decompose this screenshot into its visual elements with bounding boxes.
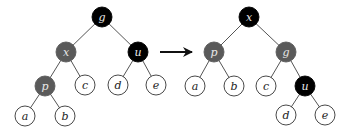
tree-node-x: x bbox=[239, 7, 259, 27]
tree-node-a: a bbox=[15, 106, 35, 126]
tree-node-p: p bbox=[204, 42, 224, 62]
tree-node-b: b bbox=[224, 76, 244, 96]
tree-node-a: a bbox=[185, 76, 205, 96]
before-rotation-edges bbox=[25, 17, 156, 116]
node-label: a bbox=[192, 80, 199, 93]
node-label: c bbox=[82, 79, 88, 92]
node-label: p bbox=[41, 80, 48, 93]
node-label: u bbox=[301, 80, 308, 93]
tree-rotation-diagram: gxupcdeabxpgabcude bbox=[0, 0, 355, 137]
tree-node-d: d bbox=[276, 105, 296, 125]
node-label: d bbox=[114, 79, 121, 92]
node-label: u bbox=[134, 46, 141, 59]
node-label: c bbox=[263, 80, 269, 93]
node-label: x bbox=[63, 46, 70, 59]
tree-node-x: x bbox=[56, 42, 76, 62]
node-label: b bbox=[230, 80, 237, 93]
node-label: d bbox=[282, 109, 289, 122]
node-label: e bbox=[322, 109, 329, 122]
before-rotation-tree: gxupcdeab bbox=[15, 7, 166, 126]
tree-node-b: b bbox=[55, 106, 75, 126]
node-label: p bbox=[210, 46, 217, 59]
node-label: g bbox=[98, 11, 105, 24]
node-label: b bbox=[61, 110, 68, 123]
node-label: e bbox=[153, 79, 160, 92]
after-rotation-tree: xpgabcude bbox=[185, 7, 335, 125]
tree-node-d: d bbox=[108, 75, 128, 95]
tree-node-u: u bbox=[128, 42, 148, 62]
tree-node-u: u bbox=[295, 76, 315, 96]
tree-node-e: e bbox=[146, 75, 166, 95]
node-label: x bbox=[246, 11, 253, 24]
node-label: g bbox=[282, 46, 289, 59]
after-rotation-edges bbox=[195, 17, 325, 115]
tree-node-p: p bbox=[35, 76, 55, 96]
tree-node-g: g bbox=[92, 7, 112, 27]
tree-node-c: c bbox=[256, 76, 276, 96]
tree-node-c: c bbox=[75, 75, 95, 95]
tree-node-g: g bbox=[276, 42, 296, 62]
node-label: a bbox=[22, 110, 29, 123]
tree-node-e: e bbox=[315, 105, 335, 125]
